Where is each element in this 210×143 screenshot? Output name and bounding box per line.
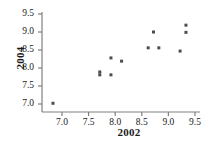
data-point [98, 70, 101, 73]
data-point [157, 46, 160, 49]
data-point [184, 24, 187, 27]
data-point [120, 60, 123, 63]
data-point-layer [51, 24, 187, 105]
x-axis-title: 2002 [62, 126, 196, 138]
data-point [51, 102, 54, 105]
data-point [152, 31, 155, 34]
data-point [184, 31, 187, 34]
y-axis-title: 2004 [14, 28, 26, 88]
y-tick-label: 9.5 [8, 8, 34, 18]
data-point [109, 56, 112, 59]
scatter-plot-figure: 7.07.58.08.59.09.57.07.58.08.59.09.5 200… [0, 0, 210, 143]
data-point [98, 73, 101, 76]
tick-marks [38, 14, 195, 116]
data-point [179, 50, 182, 53]
y-tick-label: 7.0 [8, 98, 34, 108]
data-point [147, 46, 150, 49]
data-point [109, 73, 112, 76]
